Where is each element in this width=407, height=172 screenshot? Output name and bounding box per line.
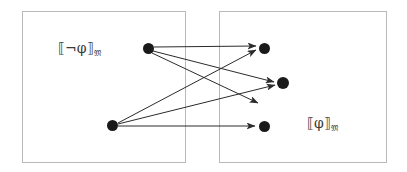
node-left (107, 120, 118, 131)
edge-arrow (118, 85, 275, 124)
node-right (259, 121, 270, 132)
edge-arrow (153, 51, 274, 82)
node-left (143, 43, 154, 54)
edges-layer (0, 0, 407, 172)
edges-group (118, 46, 275, 126)
node-right (259, 43, 270, 54)
node-right (277, 77, 289, 89)
edge-arrow (152, 53, 258, 103)
edge-arrow (154, 46, 256, 47)
edge-arrow (118, 50, 256, 123)
figure-canvas: ⟦¬φ⟧𝔐 ⟦φ⟧𝔐 (0, 0, 407, 172)
